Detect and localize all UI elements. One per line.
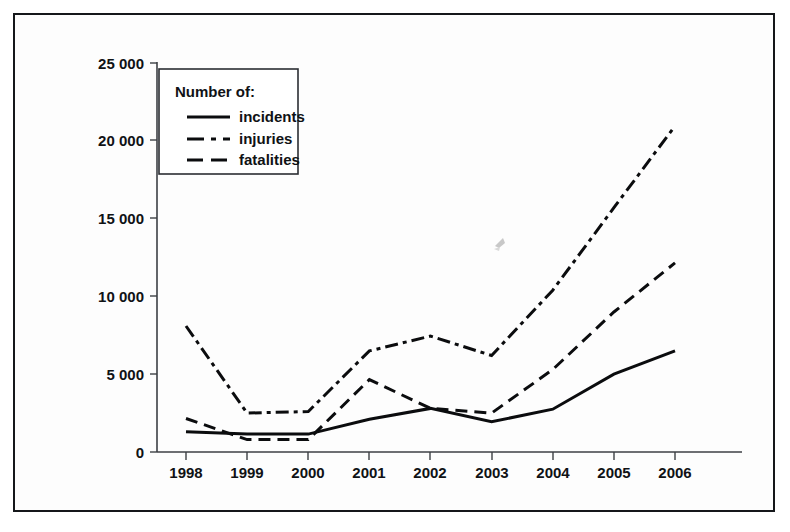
y-tick-label-15000: 15 000 (98, 210, 144, 227)
legend-title: Number of: (175, 83, 255, 100)
x-tick-label-1998: 1998 (169, 464, 202, 481)
x-tick-label-1999: 1999 (230, 464, 263, 481)
y-tick-marks (150, 63, 157, 452)
y-tick-label-0: 0 (136, 444, 144, 461)
x-tick-label-2002: 2002 (413, 464, 446, 481)
x-tick-label-2004: 2004 (536, 464, 570, 481)
legend-label-incidents: incidents (239, 108, 305, 125)
x-tick-marks (186, 452, 675, 460)
y-tick-label-20000: 20 000 (98, 132, 144, 149)
y-axis-tick-labels: 0 5 000 10 000 15 000 20 000 25 000 (98, 55, 144, 461)
y-tick-label-25000: 25 000 (98, 55, 144, 72)
legend-label-injuries: injuries (239, 130, 292, 147)
x-tick-label-2006: 2006 (658, 464, 691, 481)
x-tick-label-2001: 2001 (352, 464, 385, 481)
x-axis-tick-labels: 1998 1999 2000 2001 2002 2003 2004 2005 … (169, 464, 691, 481)
y-tick-label-10000: 10 000 (98, 288, 144, 305)
series-line-incidents (186, 351, 675, 434)
legend: Number of: incidents injuries fatalities (159, 69, 305, 174)
x-tick-label-2003: 2003 (475, 464, 508, 481)
line-chart: 0 5 000 10 000 15 000 20 000 25 000 1998… (0, 0, 790, 532)
x-tick-label-2005: 2005 (597, 464, 630, 481)
figure-root: 0 5 000 10 000 15 000 20 000 25 000 1998… (0, 0, 790, 532)
y-tick-label-5000: 5 000 (106, 366, 144, 383)
scan-speck-artifact (494, 238, 505, 251)
legend-label-fatalities: fatalities (239, 151, 300, 168)
x-tick-label-2000: 2000 (291, 464, 324, 481)
